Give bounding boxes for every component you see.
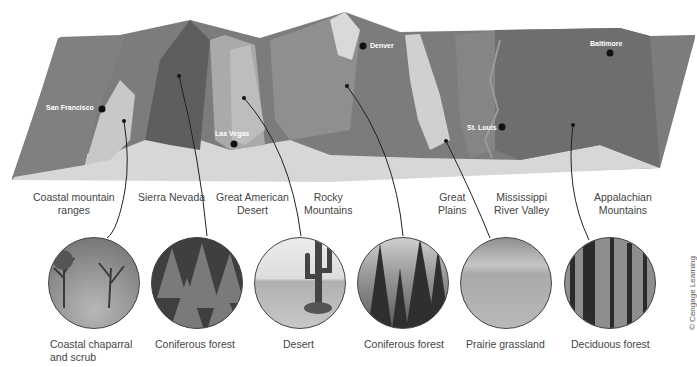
- city-label-baltimore: Baltimore: [590, 40, 622, 47]
- region-label-sierra-nevada: Sierra Nevada: [138, 191, 205, 204]
- caption-prairie-grassland: Prairie grassland: [466, 338, 545, 351]
- chaparral-photo-icon: [49, 238, 140, 329]
- photo-prairie-grassland: [460, 237, 552, 329]
- region-label-mississippi-river-valley: Mississippi River Valley: [494, 191, 549, 217]
- city-label-san-francisco: San Francisco: [46, 104, 94, 111]
- caption-desert: Desert: [283, 338, 314, 351]
- photo-desert: [254, 237, 346, 329]
- photo-deciduous-forest: [564, 237, 656, 329]
- city-label-denver: Denver: [370, 42, 394, 49]
- region-label-great-american-desert: Great American Desert: [216, 191, 289, 217]
- deciduous-photo-icon: [565, 238, 656, 329]
- caption-coniferous-forest-2: Coniferous forest: [364, 338, 444, 351]
- region-label-coastal-mountain-ranges: Coastal mountain ranges: [33, 191, 115, 217]
- conifer-photo-icon: [358, 238, 449, 329]
- photo-coniferous-forest-rockies: [357, 237, 449, 329]
- conifer-photo-icon: [152, 238, 243, 329]
- region-label-appalachian-mountains: Appalachian Mountains: [594, 191, 652, 217]
- city-label-las-vegas: Las Vegas: [215, 130, 249, 137]
- photo-coniferous-forest-sierra: [151, 237, 243, 329]
- photo-coastal-chaparral: [48, 237, 140, 329]
- caption-coastal-chaparral: Coastal chaparral and scrub: [50, 338, 132, 364]
- region-label-rocky-mountains: Rocky Mountains: [304, 191, 352, 217]
- city-label-st-louis: St. Louis: [467, 124, 497, 131]
- copyright-credit: © Cengage Learning: [688, 256, 697, 330]
- region-label-great-plains: Great Plains: [438, 191, 467, 217]
- appalachian-region: [495, 28, 660, 168]
- desert-photo-icon: [255, 238, 346, 329]
- terrain-cross-section: [0, 0, 695, 190]
- caption-coniferous-forest-1: Coniferous forest: [155, 338, 235, 351]
- caption-deciduous-forest: Deciduous forest: [571, 338, 650, 351]
